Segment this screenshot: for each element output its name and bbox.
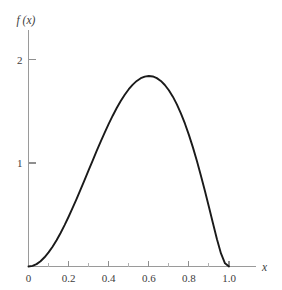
function-curve (29, 76, 230, 267)
x-tick-label-0.4: 0.4 (102, 272, 116, 284)
x-axis-ticks (49, 261, 229, 267)
y-axis-tick-labels: 12 (17, 54, 23, 170)
y-tick-label-1: 1 (17, 157, 23, 169)
x-tick-label-1: 1.0 (222, 272, 236, 284)
function-plot: 00.20.40.60.81.0 12 x f (x) (0, 0, 282, 290)
x-tick-label-0.6: 0.6 (142, 272, 156, 284)
y-axis-label: f (x) (17, 14, 36, 27)
y-axis-ticks (29, 60, 36, 164)
x-axis-tick-labels: 00.20.40.60.81.0 (26, 272, 237, 284)
x-tick-label-0.8: 0.8 (182, 272, 196, 284)
x-axis-label: x (261, 261, 268, 273)
x-tick-label-0: 0 (26, 272, 32, 284)
figure-plot-area: 00.20.40.60.81.0 12 x f (x) (0, 0, 282, 290)
y-tick-label-2: 2 (17, 54, 23, 66)
x-tick-label-0.2: 0.2 (62, 272, 76, 284)
